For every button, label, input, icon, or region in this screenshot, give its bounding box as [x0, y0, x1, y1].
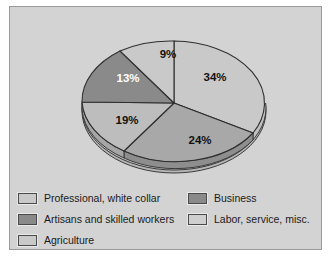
pie-chart-area: 34% 24% 19% 13% 9%	[10, 7, 321, 187]
legend-label-labor-service-misc: Labor, service, misc.	[214, 214, 310, 225]
legend-column-right: Business Labor, service, misc.	[188, 189, 318, 231]
legend-label-agriculture: Agriculture	[44, 235, 94, 246]
chart-panel: 34% 24% 19% 13% 9% Professional, white c…	[9, 6, 322, 250]
legend-item-professional-white-collar[interactable]: Professional, white collar	[18, 189, 190, 208]
page-root: 34% 24% 19% 13% 9% Professional, white c…	[0, 0, 335, 267]
pie-label-13: 13%	[116, 72, 139, 84]
chart-legend: Professional, white collar Artisans and …	[16, 189, 318, 247]
pie-label-19: 19%	[115, 114, 138, 126]
legend-swatch-icon-labor-service-misc	[188, 214, 207, 225]
legend-item-labor-service-misc[interactable]: Labor, service, misc.	[188, 210, 318, 229]
legend-swatch-icon-professional-white-collar	[18, 193, 37, 204]
legend-label-artisans-and-skilled-workers: Artisans and skilled workers	[44, 214, 174, 225]
pie-label-24: 24%	[188, 134, 211, 146]
legend-swatch-icon-agriculture	[18, 235, 37, 246]
legend-label-business: Business	[214, 193, 257, 204]
legend-swatch-icon-artisans-and-skilled-workers	[18, 214, 37, 225]
legend-swatch-icon-business	[188, 193, 207, 204]
legend-item-agriculture[interactable]: Agriculture	[18, 231, 190, 250]
legend-item-artisans-and-skilled-workers[interactable]: Artisans and skilled workers	[18, 210, 190, 229]
legend-label-professional-white-collar: Professional, white collar	[44, 193, 160, 204]
legend-column-left: Professional, white collar Artisans and …	[18, 189, 190, 252]
pie-chart-svg: 34% 24% 19% 13% 9%	[10, 7, 321, 187]
legend-item-business[interactable]: Business	[188, 189, 318, 208]
pie-label-9: 9%	[160, 48, 177, 60]
pie-label-34: 34%	[203, 71, 226, 83]
